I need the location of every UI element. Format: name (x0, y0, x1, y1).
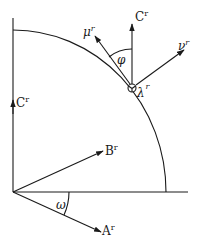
nu-sup: r (185, 38, 190, 47)
svg-text:Br: Br (105, 143, 118, 158)
a-sup: r (111, 223, 115, 232)
c-left-label: C (16, 96, 25, 110)
nu-arrow (136, 50, 184, 85)
vector-diagram: Cr Cr μr νr φ λr Br Ar ω (0, 0, 203, 244)
nu-label: ν (178, 39, 185, 53)
b-arrow (13, 151, 103, 192)
phi-label: φ (117, 53, 126, 67)
b-label: B (105, 144, 114, 158)
svg-text:Cr: Cr (135, 9, 148, 24)
mu-sup: r (91, 24, 96, 33)
quarter-arc (13, 30, 166, 192)
svg-text:λr: λr (136, 82, 151, 100)
c-top-label: C (135, 10, 144, 24)
svg-text:Cr: Cr (16, 95, 29, 110)
svg-text:μr: μr (83, 24, 96, 39)
svg-text:νr: νr (178, 38, 190, 53)
c-top-sup: r (144, 9, 148, 18)
a-label: A (101, 224, 111, 238)
b-sup: r (114, 143, 118, 152)
lambda-label: λ (136, 86, 145, 100)
omega-label: ω (56, 198, 66, 212)
c-left-sup: r (25, 95, 29, 104)
svg-text:Ar: Ar (101, 223, 115, 238)
mu-label: μ (83, 25, 91, 39)
lambda-sup: r (146, 82, 151, 91)
